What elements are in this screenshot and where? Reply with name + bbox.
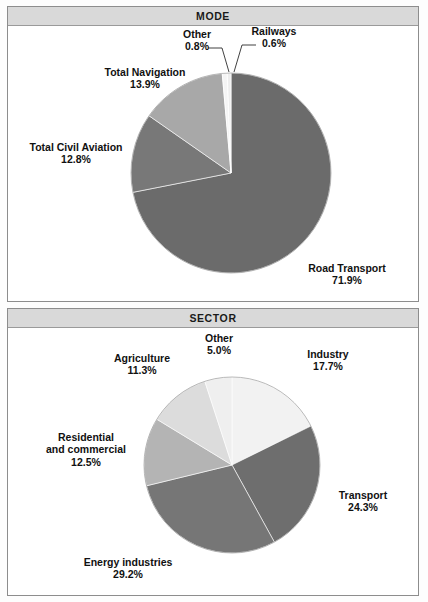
slice-label-mode-road-transport-value: 71.9%	[288, 274, 406, 286]
slice-label-sector-transport-value: 24.3%	[318, 501, 408, 513]
slice-label-sector-industry-name: Industry	[307, 348, 348, 360]
slice-label-sector-energy-industries-name: Energy industries	[84, 556, 173, 568]
slice-label-sector-agriculture-value: 11.3%	[94, 364, 190, 376]
slice-label-sector-energy-industries: Energy industries 29.2%	[62, 556, 194, 581]
slice-label-sector-residential-value: 12.5%	[20, 456, 152, 468]
slice-label-mode-other-value: 0.8%	[166, 40, 228, 52]
slice-label-sector-energy-industries-value: 29.2%	[62, 568, 194, 580]
slice-label-sector-other-value: 5.0%	[186, 344, 252, 356]
slice-label-sector-agriculture-name: Agriculture	[114, 352, 170, 364]
figure-root: MODE SECTOR Other 0.8% Railways 0.6% Tot…	[0, 0, 428, 602]
slice-label-sector-other-name: Other	[205, 332, 233, 344]
slice-label-mode-total-civil-aviation-name: Total Civil Aviation	[30, 141, 123, 153]
slice-label-sector-residential-and-commercial: Residential and commercial 12.5%	[20, 431, 152, 468]
slice-label-mode-road-transport: Road Transport 71.9%	[288, 262, 406, 287]
slice-label-sector-residential-name-line2: and commercial	[20, 443, 152, 455]
panel-mode-title: MODE	[8, 10, 418, 22]
slice-label-sector-industry: Industry 17.7%	[286, 348, 370, 373]
slice-label-mode-total-civil-aviation: Total Civil Aviation 12.8%	[6, 141, 146, 166]
panel-sector-title: SECTOR	[8, 312, 418, 324]
slice-label-sector-transport: Transport 24.3%	[318, 489, 408, 514]
slice-label-mode-total-navigation-name: Total Navigation	[105, 66, 186, 78]
slice-label-sector-other: Other 5.0%	[186, 332, 252, 357]
slice-label-mode-total-civil-aviation-value: 12.8%	[6, 153, 146, 165]
slice-label-mode-other-name: Other	[183, 28, 211, 40]
slice-label-mode-railways-name: Railways	[252, 25, 297, 37]
slice-label-sector-residential-name-line1: Residential	[58, 431, 114, 443]
slice-label-sector-agriculture: Agriculture 11.3%	[94, 352, 190, 377]
slice-label-mode-other: Other 0.8%	[166, 28, 228, 53]
panel-mode-header: MODE	[8, 7, 418, 26]
slice-label-mode-road-transport-name: Road Transport	[308, 262, 386, 274]
panel-sector-header: SECTOR	[8, 309, 418, 328]
slice-label-sector-transport-name: Transport	[339, 489, 387, 501]
slice-label-mode-railways-value: 0.6%	[238, 37, 310, 49]
slice-label-sector-industry-value: 17.7%	[286, 360, 370, 372]
slice-label-mode-railways: Railways 0.6%	[238, 25, 310, 50]
slice-label-mode-total-navigation-value: 13.9%	[75, 78, 215, 90]
slice-label-mode-total-navigation: Total Navigation 13.9%	[75, 66, 215, 91]
